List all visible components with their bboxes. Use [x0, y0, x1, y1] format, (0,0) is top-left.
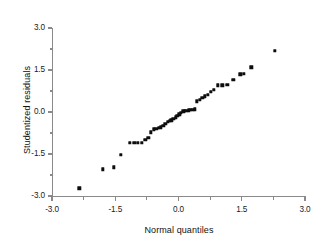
data-point — [250, 65, 253, 68]
data-point — [216, 84, 219, 87]
data-point — [273, 49, 276, 52]
data-point — [119, 153, 122, 156]
data-point — [221, 83, 224, 86]
x-axis-minor-tick — [210, 197, 211, 200]
x-axis-minor-tick — [83, 197, 84, 200]
x-axis-tick-label: 3.0 — [285, 205, 325, 214]
qq-plot-figure: 3.01.50.0-1.5-3.0 -3.0-1.50.01.53.0 Norm… — [0, 0, 331, 245]
plot-area — [52, 28, 305, 196]
x-axis-minor-tick — [146, 197, 147, 200]
data-point — [78, 186, 81, 189]
data-point — [140, 141, 143, 144]
y-axis-tick-label: -3.0 — [15, 191, 45, 200]
data-point — [146, 136, 149, 139]
data-point — [128, 141, 131, 144]
x-axis-tick-label: -3.0 — [32, 205, 72, 214]
y-axis-title: Studentized residuals — [22, 35, 32, 185]
x-axis-tick — [304, 197, 305, 201]
x-axis-tick — [241, 197, 242, 201]
data-point — [101, 168, 104, 171]
data-point — [226, 83, 229, 86]
x-axis-minor-tick — [273, 197, 274, 200]
y-axis-tick-label: 3.0 — [15, 23, 45, 32]
data-point — [149, 130, 152, 133]
data-point — [112, 165, 115, 168]
data-point — [206, 93, 209, 96]
data-point — [193, 108, 196, 111]
data-point — [212, 88, 215, 91]
x-axis-tick — [115, 197, 116, 201]
x-axis-tick-label: 0.0 — [159, 205, 199, 214]
x-axis-tick-label: -1.5 — [95, 205, 135, 214]
data-point — [242, 72, 245, 75]
x-axis-title: Normal quantiles — [52, 225, 306, 235]
x-axis-tick — [178, 197, 179, 201]
data-point — [232, 78, 235, 81]
x-axis-tick-label: 1.5 — [222, 205, 262, 214]
x-axis-tick — [51, 197, 52, 201]
